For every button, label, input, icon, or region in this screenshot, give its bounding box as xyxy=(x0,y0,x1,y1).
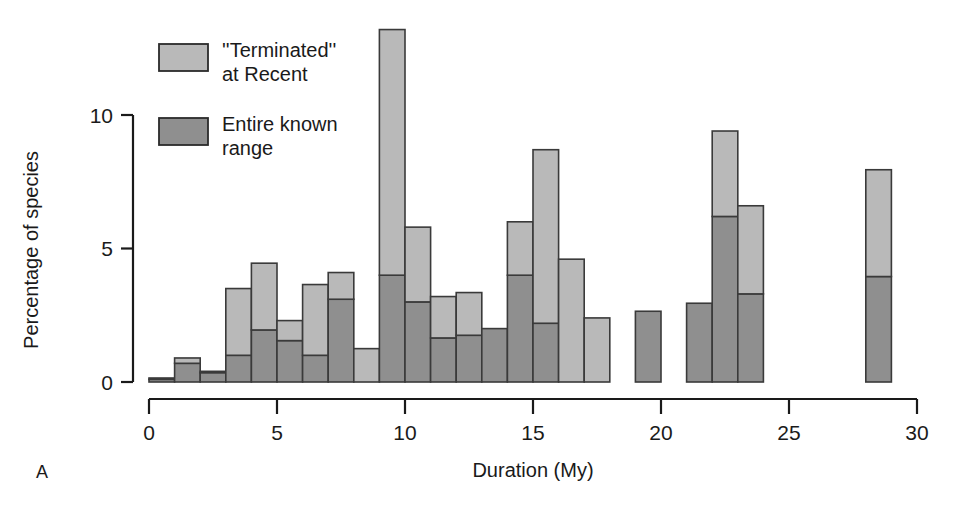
figure-panel-a: 10 5 0 Percentage of species 0 5 10 15 2… xyxy=(0,0,976,506)
bar-segment-entire-known-range xyxy=(866,277,892,382)
bar-segment-terminated-at-recent xyxy=(533,150,559,324)
x-tick-label-0: 0 xyxy=(143,421,155,444)
bar-segment-entire-known-range xyxy=(405,302,431,382)
y-tick-label-5: 5 xyxy=(101,237,113,260)
bar-segment-terminated-at-recent xyxy=(277,321,303,341)
bar-segment-terminated-at-recent xyxy=(738,206,764,294)
bar-segment-entire-known-range xyxy=(200,373,226,382)
x-tick-label-20: 20 xyxy=(649,421,672,444)
bar-segment-entire-known-range xyxy=(379,275,405,382)
y-tick-label-0: 0 xyxy=(101,371,113,394)
bar-segment-terminated-at-recent xyxy=(507,222,533,275)
legend: ''Terminated'' at Recent Entire known ra… xyxy=(159,39,338,159)
legend-label-terminated-line2: at Recent xyxy=(222,63,308,85)
bar-segment-terminated-at-recent xyxy=(149,378,175,379)
bar-segment-entire-known-range xyxy=(175,363,201,382)
bar-segment-entire-known-range xyxy=(687,303,713,382)
x-tick-label-15: 15 xyxy=(521,421,544,444)
bar-segment-entire-known-range xyxy=(251,330,277,382)
bar-segment-entire-known-range xyxy=(533,323,559,382)
bar-segment-entire-known-range xyxy=(328,299,354,382)
bar-segment-entire-known-range xyxy=(431,338,457,382)
bar-segment-entire-known-range xyxy=(738,294,764,382)
legend-label-entire-line2: range xyxy=(222,137,273,159)
bar-segment-terminated-at-recent xyxy=(866,170,892,277)
bar-segment-entire-known-range xyxy=(277,341,303,382)
legend-label-entire-line1: Entire known xyxy=(222,113,338,135)
histogram-chart: 10 5 0 Percentage of species 0 5 10 15 2… xyxy=(0,0,976,506)
bar-segment-entire-known-range xyxy=(482,329,508,382)
bar-segment-terminated-at-recent xyxy=(328,273,354,300)
bar-segment-terminated-at-recent xyxy=(712,131,738,216)
y-axis-title: Percentage of species xyxy=(20,151,42,349)
y-tick-label-10: 10 xyxy=(90,104,113,127)
bar-segment-terminated-at-recent xyxy=(456,293,482,336)
x-tick-label-10: 10 xyxy=(393,421,416,444)
bar-segment-entire-known-range xyxy=(712,216,738,382)
legend-swatch-entire-known-range xyxy=(159,118,208,145)
bar-segment-terminated-at-recent xyxy=(226,289,252,356)
bar-segment-entire-known-range xyxy=(456,335,482,382)
bar-segment-entire-known-range xyxy=(507,275,533,382)
bar-segment-entire-known-range xyxy=(226,355,252,382)
bar-segment-terminated-at-recent xyxy=(251,263,277,330)
bar-segment-entire-known-range xyxy=(635,311,661,382)
x-tick-label-25: 25 xyxy=(777,421,800,444)
bar-segment-entire-known-range xyxy=(303,355,329,382)
x-axis-title: Duration (My) xyxy=(472,459,593,481)
bar-segment-terminated-at-recent xyxy=(354,349,380,382)
bar-segment-terminated-at-recent xyxy=(559,259,585,382)
bar-segment-terminated-at-recent xyxy=(175,358,201,363)
bar-segment-terminated-at-recent xyxy=(431,297,457,338)
bar-segment-terminated-at-recent xyxy=(379,30,405,276)
x-tick-label-30: 30 xyxy=(905,421,928,444)
bar-segment-terminated-at-recent xyxy=(584,318,610,382)
x-axis: 0 5 10 15 20 25 30 Duration (My) xyxy=(143,399,929,481)
x-tick-label-5: 5 xyxy=(271,421,283,444)
bar-segment-terminated-at-recent xyxy=(405,227,431,302)
legend-label-terminated-line1: ''Terminated'' xyxy=(222,39,336,61)
y-axis: 10 5 0 Percentage of species xyxy=(20,104,133,394)
panel-label: A xyxy=(36,462,48,482)
bar-segment-terminated-at-recent xyxy=(200,371,226,372)
bar-segment-terminated-at-recent xyxy=(303,285,329,356)
legend-swatch-terminated-at-recent xyxy=(159,44,208,71)
